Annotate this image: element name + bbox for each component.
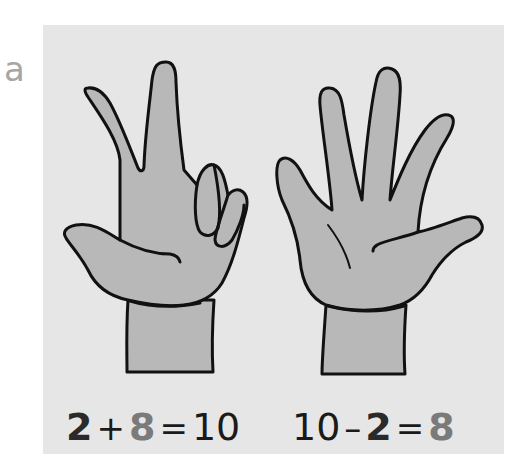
right-hand-icon — [277, 68, 483, 374]
equation-result: 10 — [192, 405, 240, 449]
equation-term: 2 — [365, 405, 391, 449]
equation-term: 2 — [66, 405, 92, 449]
equals-operator: = — [155, 408, 192, 448]
hands-illustration — [0, 0, 524, 454]
equals-operator: = — [392, 408, 429, 448]
equation-subtraction: 10–2=8 — [292, 408, 455, 446]
equation-addition: 2+8=10 — [66, 408, 240, 446]
plus-operator: + — [92, 408, 129, 448]
equation-term: 8 — [129, 405, 155, 449]
equation-result: 8 — [428, 405, 454, 449]
minus-operator: – — [340, 408, 365, 448]
left-hand-icon — [64, 62, 247, 372]
equation-term: 10 — [292, 405, 340, 449]
